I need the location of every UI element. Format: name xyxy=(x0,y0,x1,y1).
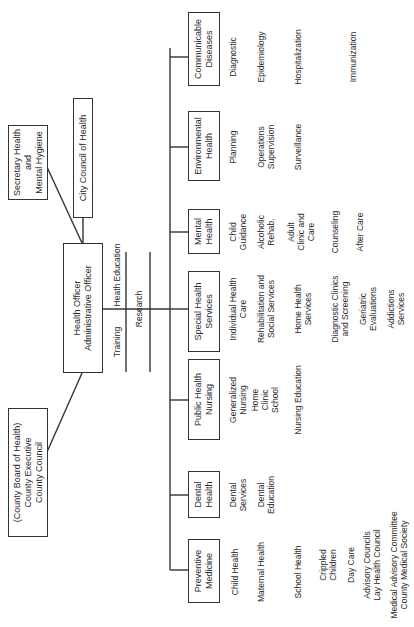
item-label: Alcoholic Rehab. xyxy=(256,215,276,249)
item-label: Individual Health Care xyxy=(228,278,248,341)
division-preventive-medicine: Preventive Medicine xyxy=(188,539,220,603)
item-label: Nursing Education xyxy=(293,365,303,434)
division-dental-health: Dental Health xyxy=(188,471,220,518)
item-label: Rehabilitation and Social Services xyxy=(256,275,276,343)
item-label: Surveillance xyxy=(293,124,303,170)
item-label: Operations Supervision xyxy=(256,125,276,169)
item-label: Adult Clinic and Care xyxy=(286,213,316,250)
city-council-box: City Council of Health xyxy=(73,98,93,218)
health-education-label: Heath Education xyxy=(112,244,122,307)
item-label: After Care xyxy=(355,213,365,252)
item-label: Immunization xyxy=(348,32,358,83)
division-environmental-health: Environmental Health xyxy=(188,111,220,181)
item-label: Advisory Councils Lay Health Council xyxy=(362,529,382,600)
item-label: Home Health Services xyxy=(293,284,313,334)
division-communicable-diseases: Communicable Diseases xyxy=(188,12,220,86)
item-label: School Health xyxy=(293,546,303,599)
item-label: Epidemiology xyxy=(256,31,266,82)
item-label: Child Health xyxy=(230,549,240,595)
health-officer-box: Health Officer Administrative Officer xyxy=(63,243,103,373)
item-label: Geriatric Evaluations xyxy=(358,287,378,331)
division-special-health-services: Special Health Services xyxy=(188,271,220,352)
item-label: Diagnostic Clinics and Screening xyxy=(330,275,350,342)
item-label: Day Care xyxy=(346,547,356,583)
org-chart: (County Board of Health) County Executiv… xyxy=(0,0,414,627)
secretary-box: Secretary Health and Mental Hygiene xyxy=(8,125,48,200)
item-label: Maternal Health xyxy=(256,542,266,602)
item-label: Diagnostic xyxy=(228,37,238,77)
item-label: Child Guidance xyxy=(228,214,248,250)
item-label: Medical Advisory Committee County Medica… xyxy=(389,511,409,618)
item-label: Counseling xyxy=(330,211,340,254)
item-label: Dental Education xyxy=(256,476,276,514)
training-label: Training xyxy=(112,327,122,357)
item-label: Addictions Services xyxy=(386,289,406,328)
research-label: Research xyxy=(134,291,144,327)
county-board-box: (County Board of Health) County Executiv… xyxy=(8,408,48,537)
item-label: Hospitalization xyxy=(293,29,303,84)
item-label: Planning xyxy=(228,130,238,163)
division-public-health-nursing: Public Health Nursing xyxy=(188,359,220,440)
item-label: Crippled Children xyxy=(318,549,338,581)
division-mental-health: Mental Health xyxy=(188,209,220,254)
item-label: Generalized Nursing xyxy=(228,377,248,423)
item-label: Home Clinic School xyxy=(250,387,280,413)
item-label: Dental Services xyxy=(228,479,248,512)
